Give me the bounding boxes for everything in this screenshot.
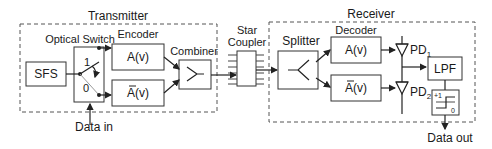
transmitter-group: Transmitter SFS Optical Switch 1 0 Encod… — [20, 9, 218, 134]
splitter-label: Splitter — [282, 34, 319, 48]
star-coupler-line1: Star — [237, 24, 258, 36]
data-in-label: Data in — [75, 120, 113, 134]
star-coupler-line2: Coupler — [228, 36, 267, 48]
decoder-a-label: A(v) — [345, 43, 367, 57]
encoder-label: Encoder — [118, 28, 159, 40]
star-coupler-group: Star Coupler — [211, 24, 277, 86]
photodiode-2-icon — [396, 82, 408, 94]
sfs-label: SFS — [34, 67, 57, 81]
photodiode-1-icon — [396, 44, 408, 56]
transmitter-title: Transmitter — [88, 9, 148, 23]
decoder-abar-label: A(v) — [345, 81, 367, 95]
combiner-label: Combiner — [170, 45, 218, 57]
encoder-a-label: A(v) — [127, 50, 149, 64]
encoder-abar-label: A(v) — [127, 86, 149, 100]
receiver-group: Receiver Splitter Decoder A(v) A(v) PD1 … — [269, 7, 475, 145]
pd2-label: PD2 — [410, 85, 432, 101]
threshold-plus-label: +1 — [434, 92, 442, 99]
combiner-block — [179, 60, 211, 89]
threshold-zero-label: 0 — [451, 107, 455, 114]
switch-state-1: 1 — [84, 56, 90, 68]
switch-state-0: 0 — [83, 82, 89, 94]
receiver-title: Receiver — [347, 7, 394, 21]
ocdma-system-diagram: Transmitter SFS Optical Switch 1 0 Encod… — [0, 0, 492, 149]
lpf-label: LPF — [434, 62, 456, 76]
data-out-label: Data out — [427, 131, 473, 145]
star-coupler-block — [237, 51, 256, 86]
decoder-label: Decoder — [335, 24, 377, 36]
optical-switch-label: Optical Switch — [45, 33, 115, 45]
